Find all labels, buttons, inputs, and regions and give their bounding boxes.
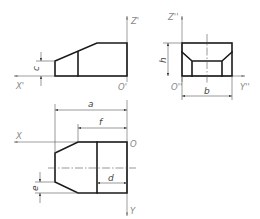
dim-label-c: c — [31, 66, 41, 71]
front-x-label: X' — [15, 81, 24, 91]
orthographic-projection-drawing: Z' X' O' c Z'' Y'' O'' h b X Y — [0, 0, 260, 219]
front-outline — [55, 43, 127, 76]
front-z-label: Z' — [130, 16, 139, 26]
dim-label-b: b — [204, 86, 210, 96]
top-x-label: X — [15, 131, 22, 141]
top-view: X Y O a f d e — [14, 99, 137, 216]
front-origin-label: O' — [118, 82, 127, 92]
side-view: Z'' Y'' O'' h b — [158, 12, 250, 100]
top-outline — [55, 142, 127, 193]
top-y-label: Y — [130, 206, 136, 216]
dim-label-h: h — [158, 57, 168, 63]
dim-label-d: d — [108, 173, 114, 183]
side-z-label: Z'' — [167, 12, 179, 22]
dim-label-f: f — [99, 117, 104, 127]
side-origin-label: O'' — [171, 82, 182, 92]
dim-label-e: e — [30, 185, 40, 191]
top-origin-label: O — [130, 139, 137, 149]
front-view: Z' X' O' c — [14, 16, 139, 92]
dim-label-a: a — [88, 99, 94, 109]
side-y-label: Y'' — [240, 82, 250, 92]
